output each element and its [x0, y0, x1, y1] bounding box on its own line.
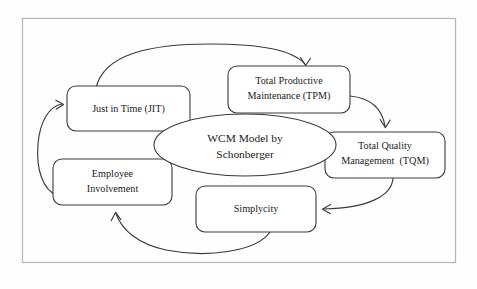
- total-quality-management-label-line2: Management (TQM): [341, 155, 429, 167]
- diagram-canvas: Just in Time (JIT) Total Productive Main…: [0, 0, 477, 289]
- total-productive-maintenance-label-line1: Total Productive: [255, 75, 323, 86]
- node-total-quality-management[interactable]: Total Quality Management (TQM): [325, 132, 445, 178]
- simplycity-label: Simplycity: [234, 203, 280, 214]
- employee-involvement-label-line2: Involvement: [87, 183, 139, 194]
- arrow-tqm-to-simplycity: [322, 178, 393, 214]
- wcm-model-ellipse[interactable]: [154, 114, 336, 176]
- wcm-model-label-line1: WCM Model by: [207, 132, 283, 144]
- wcm-model-label-line2: Schonberger: [216, 148, 274, 160]
- just-in-time-label: Just in Time (JIT): [92, 103, 165, 115]
- node-employee-involvement[interactable]: Employee Involvement: [53, 159, 172, 205]
- node-total-productive-maintenance[interactable]: Total Productive Maintenance (TPM): [228, 66, 350, 113]
- wcm-cycle-diagram: Just in Time (JIT) Total Productive Main…: [0, 0, 477, 289]
- total-quality-management-label-line1: Total Quality: [358, 140, 413, 151]
- node-wcm-model-center[interactable]: WCM Model by Schonberger: [154, 114, 336, 176]
- employee-involvement-label-line1: Employee: [92, 168, 134, 179]
- arrow-tpm-to-tqm: [350, 96, 390, 128]
- total-productive-maintenance-label-line2: Maintenance (TPM): [248, 90, 331, 102]
- node-just-in-time[interactable]: Just in Time (JIT): [67, 86, 190, 131]
- node-simplycity[interactable]: Simplycity: [196, 186, 316, 232]
